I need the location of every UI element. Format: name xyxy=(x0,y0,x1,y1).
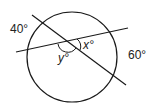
circle xyxy=(27,12,117,102)
arc-label-40: 40° xyxy=(10,22,28,36)
secant-line-1 xyxy=(32,15,126,85)
arc-label-60: 60° xyxy=(128,48,146,62)
angle-label-y: y° xyxy=(57,51,69,65)
diagram-canvas: 40° x° y° 60° xyxy=(0,0,153,107)
angle-label-x: x° xyxy=(82,38,94,52)
secant-line-2 xyxy=(16,28,128,52)
